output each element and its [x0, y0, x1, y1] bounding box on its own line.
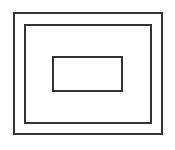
inner-rectangle: [52, 56, 123, 92]
